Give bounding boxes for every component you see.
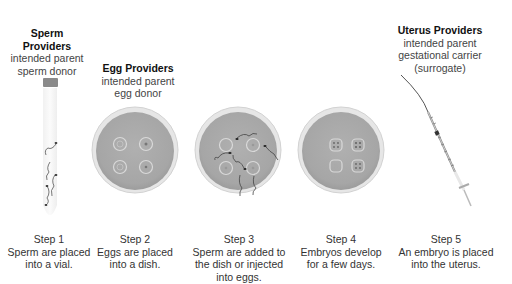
step-3-caption: Step 3 Sperm are added to the dish or in… (187, 233, 291, 283)
step-1-text-1: Sperm are placed (0, 246, 98, 259)
step-2-text-2: into a dish. (92, 258, 178, 271)
step-1-text-2: into a vial. (0, 258, 98, 271)
step-4-caption: Step 4 Embryos develop for a few days. (294, 233, 388, 271)
vial-icon (43, 78, 58, 215)
step-5-text-1: An embryo is placed (390, 246, 502, 259)
step-1-caption: Step 1 Sperm are placed into a vial. (0, 233, 98, 271)
step-3-label: Step 3 (187, 233, 291, 246)
step-2-label: Step 2 (92, 233, 178, 246)
petri-dish-eggs-icon (92, 107, 178, 193)
step-5-label: Step 5 (390, 233, 502, 246)
step-4-text-1: Embryos develop (294, 246, 388, 259)
syringe-catheter-icon (401, 75, 471, 206)
step-3-text-3: into eggs. (187, 271, 291, 284)
step-4-label: Step 4 (294, 233, 388, 246)
step-5-text-2: into the uterus. (390, 258, 502, 271)
step-1-label: Step 1 (0, 233, 98, 246)
petri-dish-embryos-icon (298, 107, 384, 193)
step-3-text-1: Sperm are added to (187, 246, 291, 259)
step-5-caption: Step 5 An embryo is placed into the uter… (390, 233, 502, 271)
step-2-caption: Step 2 Eggs are placed into a dish. (92, 233, 178, 271)
step-4-text-2: for a few days. (294, 258, 388, 271)
step-2-text-1: Eggs are placed (92, 246, 178, 259)
step-3-text-2: the dish or injected (187, 258, 291, 271)
petri-dish-sperm-icon (195, 107, 281, 196)
